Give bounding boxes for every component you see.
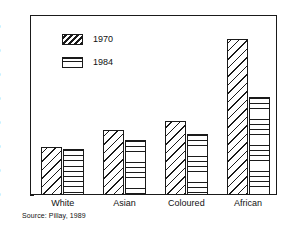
bar — [227, 39, 248, 195]
legend-swatch-diagonal-hatch-icon — [62, 34, 83, 45]
bar — [103, 130, 124, 195]
bar — [187, 134, 208, 195]
bar — [63, 149, 84, 195]
legend: 1970 1984 — [62, 34, 132, 74]
source-note: Source: Pillay, 1989 — [22, 211, 86, 221]
figure-container: 010203040506070 WhiteAsianColouredAfrica… — [0, 0, 291, 235]
x-axis-tick-label: African — [208, 197, 288, 209]
y-axis-tick-mark — [30, 195, 34, 196]
bar — [165, 121, 186, 195]
legend-label-1970: 1970 — [93, 33, 113, 46]
legend-swatch-horizontal-lines-icon — [62, 57, 83, 68]
bar — [125, 140, 146, 195]
bar — [41, 147, 62, 195]
x-axis-category-labels: WhiteAsianColouredAfrican — [30, 197, 277, 211]
legend-label-1984: 1984 — [93, 56, 113, 69]
bar — [249, 97, 270, 195]
